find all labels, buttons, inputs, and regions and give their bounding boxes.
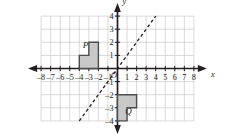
x-tick-label: –3 bbox=[84, 73, 93, 82]
x-tick-label: 8 bbox=[192, 73, 196, 82]
y-axis-arrow-down bbox=[114, 125, 121, 134]
origin-label: O bbox=[111, 71, 117, 80]
x-tick-label: 7 bbox=[182, 73, 186, 82]
x-tick-label: 5 bbox=[163, 73, 167, 82]
x-tick-label: –7 bbox=[46, 73, 55, 82]
y-tick-label: –4 bbox=[104, 117, 113, 126]
y-tick-label: 3 bbox=[109, 25, 113, 34]
x-axis-arrow-right bbox=[198, 65, 207, 72]
coordinate-plane-svg: –8–7–6–5–4–3–2–1123456784321–1–2–3–4 PQ … bbox=[0, 0, 235, 135]
shape-label-p: P bbox=[82, 40, 89, 50]
x-tick-label: –6 bbox=[55, 73, 64, 82]
y-tick-label: 2 bbox=[109, 38, 113, 47]
y-tick-label: 1 bbox=[109, 51, 113, 60]
y-tick-label: 4 bbox=[109, 12, 113, 21]
y-tick-label: –3 bbox=[104, 104, 113, 113]
x-tick-label: –4 bbox=[74, 73, 83, 82]
x-tick-label: –2 bbox=[93, 73, 102, 82]
y-tick-label: –2 bbox=[104, 91, 113, 100]
coordinate-plane-figure: –8–7–6–5–4–3–2–1123456784321–1–2–3–4 PQ … bbox=[0, 0, 235, 135]
y-axis-name: y bbox=[122, 0, 127, 6]
x-tick-label: 4 bbox=[154, 73, 158, 82]
x-tick-label: 1 bbox=[125, 73, 129, 82]
x-tick-label: –8 bbox=[36, 73, 45, 82]
y-axis-arrow-up bbox=[114, 3, 121, 12]
x-tick-label: 2 bbox=[135, 73, 139, 82]
x-axis-arrow-left bbox=[28, 65, 37, 72]
x-tick-label: 3 bbox=[144, 73, 148, 82]
x-tick-label: –5 bbox=[65, 73, 74, 82]
x-tick-label: 6 bbox=[173, 73, 177, 82]
x-axis-name: x bbox=[210, 70, 215, 79]
shape-label-q: Q bbox=[125, 106, 132, 116]
